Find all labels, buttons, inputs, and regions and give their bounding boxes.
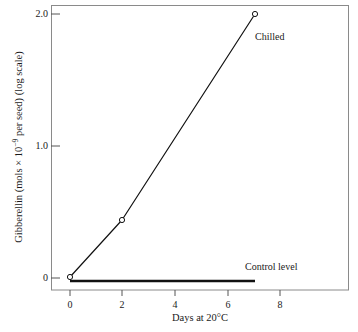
series-chilled-markers [67, 11, 257, 279]
x-tick-label-0: 0 [60, 300, 80, 310]
y-tick-marks [51, 14, 60, 278]
x-axis-title: Days at 20°C [51, 312, 349, 323]
x-tick-marks [70, 290, 280, 296]
x-tick-label-8: 8 [270, 300, 290, 310]
series-chilled-line [70, 14, 255, 277]
data-point-marker [119, 217, 124, 222]
plot-canvas [0, 0, 358, 332]
chart-figure: 2.0 1.0 0 0 2 4 6 8 Gibberellin (mols × … [0, 0, 358, 332]
x-axis-title-post: C [221, 312, 228, 323]
x-tick-label-2: 2 [112, 300, 132, 310]
y-axis-title-post: per seed) (log scale) [13, 51, 24, 138]
x-tick-label-4: 4 [165, 300, 185, 310]
y-axis-title-wrapper: Gibberellin (mols × 10−9 per seed) (log … [8, 22, 22, 272]
y-tick-label-1: 1.0 [22, 141, 48, 151]
y-axis-title: Gibberellin (mols × 10−9 per seed) (log … [13, 51, 24, 243]
y-tick-label-2: 2.0 [22, 9, 48, 19]
y-axis-title-pre: Gibberellin (mols × 10 [13, 147, 24, 243]
x-axis-title-pre: Days at 20 [172, 312, 217, 323]
series-label-chilled: Chilled [255, 31, 284, 42]
x-tick-label-6: 6 [218, 300, 238, 310]
series-label-control-level: Control level [245, 261, 298, 272]
data-point-marker [252, 11, 257, 16]
y-tick-label-0: 0 [22, 273, 48, 283]
y-axis-title-exponent: −9 [11, 139, 20, 147]
data-point-marker [67, 274, 72, 279]
